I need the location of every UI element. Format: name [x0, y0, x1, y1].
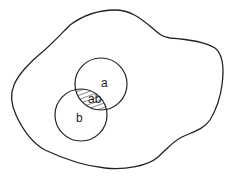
- venn-diagram: a ab b: [0, 0, 232, 180]
- universe-outline: [12, 10, 223, 169]
- set-a-label: a: [101, 76, 108, 90]
- intersection-label: ab: [88, 92, 102, 106]
- set-b-label: b: [76, 111, 83, 125]
